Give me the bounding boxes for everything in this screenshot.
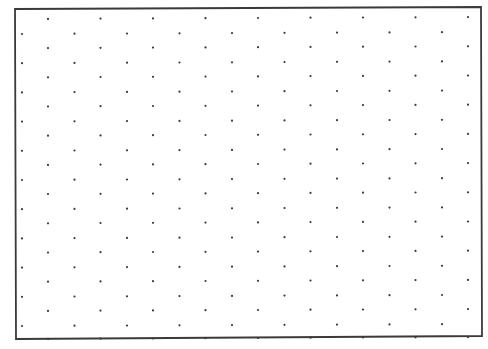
- grid-dot: [21, 325, 23, 327]
- grid-dot: [21, 121, 23, 123]
- grid-dot: [257, 163, 259, 165]
- grid-dot: [73, 149, 75, 151]
- grid-dot: [47, 193, 49, 195]
- grid-dot: [231, 295, 233, 297]
- grid-dot: [73, 120, 75, 122]
- grid-dot: [441, 236, 443, 238]
- grid-dot: [362, 133, 364, 135]
- grid-dot: [309, 75, 311, 77]
- grid-dot: [336, 61, 338, 63]
- grid-dot: [336, 148, 338, 150]
- grid-dot: [414, 45, 416, 47]
- grid-dot: [388, 119, 390, 121]
- grid-dot: [126, 62, 128, 64]
- grid-dot: [336, 294, 338, 296]
- grid-dot: [152, 280, 154, 282]
- grid-dot: [231, 61, 233, 63]
- grid-dot: [231, 149, 233, 151]
- grid-dot: [126, 32, 128, 34]
- grid-dot: [309, 17, 311, 19]
- grid-dot: [21, 296, 23, 298]
- grid-dot: [362, 308, 364, 310]
- grid-dot: [336, 178, 338, 180]
- grid-dot: [47, 281, 49, 283]
- grid-dot: [47, 47, 49, 49]
- grid-dot: [204, 17, 206, 19]
- grid-dot: [21, 179, 23, 181]
- grid-dot: [388, 61, 390, 63]
- grid-dot: [467, 162, 469, 164]
- grid-dot: [99, 280, 101, 282]
- grid-dot: [362, 162, 364, 164]
- grid-dot: [309, 133, 311, 135]
- grid-dot: [204, 46, 206, 48]
- grid-dot: [126, 178, 128, 180]
- grid-dot: [152, 105, 154, 107]
- grid-dot: [231, 90, 233, 92]
- grid-dot: [126, 120, 128, 122]
- grid-dot: [283, 32, 285, 34]
- grid-dot: [441, 206, 443, 208]
- grid-dot: [336, 90, 338, 92]
- grid-dot: [231, 120, 233, 122]
- grid-dot: [467, 74, 469, 76]
- grid-dot: [467, 336, 469, 338]
- grid-dot: [152, 17, 154, 19]
- grid-dot: [73, 33, 75, 35]
- grid-dot: [336, 119, 338, 121]
- grid-dot: [126, 237, 128, 239]
- grid-dot: [204, 134, 206, 136]
- grid-dot: [21, 208, 23, 210]
- grid-dot: [414, 104, 416, 106]
- grid-dot: [257, 221, 259, 223]
- grid-dot: [467, 191, 469, 193]
- grid-dot: [21, 150, 23, 152]
- grid-dot: [257, 251, 259, 253]
- grid-dot: [152, 163, 154, 165]
- grid-dot: [414, 308, 416, 310]
- grid-dot: [21, 237, 23, 239]
- grid-dot: [152, 251, 154, 253]
- grid-dot: [257, 46, 259, 48]
- grid-dot: [47, 76, 49, 78]
- grid-dot: [388, 90, 390, 92]
- grid-dot: [47, 310, 49, 312]
- grid-dot: [99, 193, 101, 195]
- grid-dot: [152, 193, 154, 195]
- grid-dot: [21, 267, 23, 269]
- grid-dot: [99, 310, 101, 312]
- grid-dot: [152, 76, 154, 78]
- grid-dot: [257, 105, 259, 107]
- grid-dot: [126, 208, 128, 210]
- grid-dot: [178, 266, 180, 268]
- grid-dot: [388, 236, 390, 238]
- grid-dot: [441, 148, 443, 150]
- grid-dot: [152, 134, 154, 136]
- grid-dot: [178, 149, 180, 151]
- grid-dot: [441, 31, 443, 33]
- grid-dot: [73, 295, 75, 297]
- grid-dot: [388, 323, 390, 325]
- grid-dot: [414, 133, 416, 135]
- grid-dot: [257, 17, 259, 19]
- grid-dot: [467, 308, 469, 310]
- grid-dot: [204, 280, 206, 282]
- grid-dot: [152, 309, 154, 311]
- grid-dot: [99, 105, 101, 107]
- grid-dot: [467, 279, 469, 281]
- grid-dot: [388, 177, 390, 179]
- grid-dot: [441, 60, 443, 62]
- grid-dot: [126, 295, 128, 297]
- grid-dot: [362, 192, 364, 194]
- grid-dot: [257, 309, 259, 311]
- grid-dot: [441, 119, 443, 121]
- grid-dot: [47, 338, 49, 340]
- grid-dot: [441, 265, 443, 267]
- grid-dot: [362, 104, 364, 106]
- grid-dot: [126, 91, 128, 93]
- grid-dot: [467, 133, 469, 135]
- grid-dot: [73, 325, 75, 327]
- grid-dot: [47, 105, 49, 107]
- grid-dot: [388, 265, 390, 267]
- grid-dot: [47, 164, 49, 166]
